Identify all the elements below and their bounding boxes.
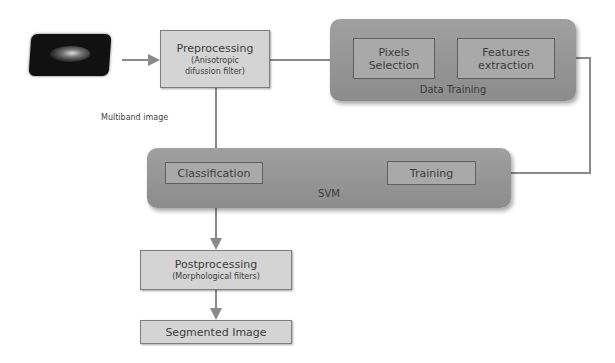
data-training-label: Data Training (330, 84, 576, 95)
pixels-selection-line1: Pixels (378, 46, 409, 59)
preprocessing-title: Preprocessing (177, 42, 254, 55)
features-extraction-line1: Features (482, 46, 529, 59)
preprocessing-subtitle-1: (Anisotropic (191, 55, 239, 66)
pixels-selection-box: Pixels Selection (353, 38, 435, 79)
training-box: Training (387, 161, 476, 185)
postprocessing-subtitle: (Morphological filters) (172, 271, 260, 282)
segmented-image-label: Segmented Image (165, 326, 266, 339)
pixels-selection-line2: Selection (369, 59, 420, 72)
multiband-image-thumbnail (29, 34, 112, 76)
multiband-image-label: Multiband image (101, 113, 168, 122)
preprocessing-box: Preprocessing (Anisotropic difussion fil… (160, 30, 270, 88)
classification-box: Classification (165, 162, 263, 184)
segmented-image-box: Segmented Image (140, 320, 292, 344)
features-extraction-box: Features extraction (457, 38, 555, 79)
features-extraction-line2: extraction (478, 59, 534, 72)
preprocessing-subtitle-2: difussion filter) (185, 66, 245, 77)
image-content-icon (50, 46, 91, 62)
postprocessing-title: Postprocessing (175, 258, 257, 271)
training-label: Training (410, 167, 453, 180)
postprocessing-box: Postprocessing (Morphological filters) (140, 250, 292, 290)
classification-label: Classification (178, 167, 251, 180)
svm-label: SVM (147, 188, 511, 199)
